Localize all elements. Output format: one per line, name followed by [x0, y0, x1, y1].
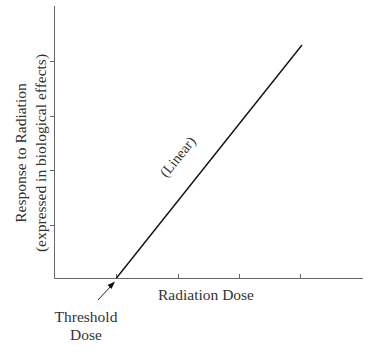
- threshold-label-line2: Dose: [54, 326, 118, 344]
- linear-response-line: [117, 45, 303, 278]
- threshold-arrow-icon: [98, 282, 115, 301]
- x-axis-ticks: [117, 274, 301, 279]
- threshold-label-line1: Threshold: [54, 308, 118, 326]
- y-axis-label-line2: (expressed in biological effects): [31, 54, 51, 252]
- y-axis-label-line1: Response to Radiation: [11, 54, 31, 252]
- x-axis-label: Radiation Dose: [158, 286, 254, 304]
- threshold-dose-label: Threshold Dose: [54, 308, 118, 344]
